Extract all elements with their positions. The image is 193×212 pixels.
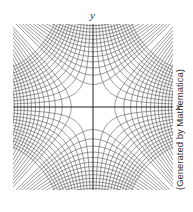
hyperbola-curve	[0, 188, 193, 212]
hyperbola-curve	[0, 0, 193, 26]
hyperbola-curve	[0, 185, 193, 212]
y-axis-label: y	[90, 10, 95, 21]
hyperbola-curve	[0, 0, 193, 32]
hyperbola-curve	[142, 0, 193, 212]
hyperbola-curve	[0, 0, 15, 212]
hyperbola-curve	[0, 0, 193, 57]
credit-caption: (Generated by Mathematica)	[174, 69, 185, 190]
hyperbola-curve	[0, 0, 193, 29]
hyperbola-curve	[0, 0, 18, 212]
hyperbola-curve	[0, 182, 193, 212]
hyperbola-curve	[0, 0, 193, 52]
hyperbola-plot	[0, 0, 193, 212]
hyperbola-curves	[0, 0, 193, 212]
